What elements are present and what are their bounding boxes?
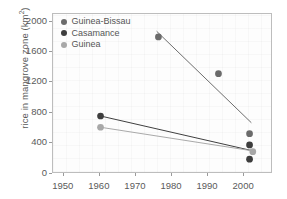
- x-tick-label: 1960: [79, 181, 119, 191]
- data-point: [246, 130, 253, 137]
- x-tick-label: 1970: [115, 181, 155, 191]
- data-point: [249, 148, 256, 155]
- x-tick-mark: [207, 173, 208, 177]
- x-tick-mark: [171, 173, 172, 177]
- legend-label: Guinea-Bissau: [72, 17, 131, 26]
- legend-marker-icon: [61, 42, 67, 48]
- plot-area: Guinea-BissauCasamanceGuinea: [52, 13, 272, 173]
- data-point: [246, 142, 253, 149]
- legend-marker-icon: [61, 30, 67, 36]
- y-tick-label: 1600: [17, 46, 47, 56]
- data-point: [246, 156, 253, 163]
- legend-label: Guinea: [72, 40, 101, 49]
- data-point: [97, 124, 104, 131]
- x-tick-label: 1950: [43, 181, 83, 191]
- x-tick-label: 2000: [223, 181, 263, 191]
- x-tick-mark: [135, 173, 136, 177]
- legend-item-casamance: Casamance: [61, 28, 131, 40]
- x-tick-mark: [243, 173, 244, 177]
- data-point: [97, 113, 104, 120]
- data-point: [155, 34, 162, 41]
- x-tick-label: 1990: [187, 181, 227, 191]
- marker-group: [97, 34, 256, 163]
- y-tick-label: 1200: [17, 76, 47, 86]
- x-tick-mark: [63, 173, 64, 177]
- legend-item-guinea: Guinea: [61, 39, 131, 51]
- trendline-casamance: [101, 116, 252, 151]
- y-tick-label: 800: [17, 107, 47, 117]
- y-tick-label: 0: [17, 168, 47, 178]
- data-point: [215, 70, 222, 77]
- y-tick-mark: [49, 173, 53, 174]
- trendline-guinea: [101, 127, 253, 151]
- x-tick-mark: [99, 173, 100, 177]
- y-tick-label: 400: [17, 137, 47, 147]
- y-axis-tick-labels: 0400800120016002000: [14, 0, 47, 199]
- legend-label: Casamance: [72, 29, 120, 38]
- y-tick-label: 2000: [17, 16, 47, 26]
- legend-marker-icon: [61, 19, 67, 25]
- x-tick-label: 1980: [151, 181, 191, 191]
- chart-figure: rice in mangrove zone (km2) 040080012001…: [0, 0, 287, 199]
- legend-item-guinea-bissau: Guinea-Bissau: [61, 16, 131, 28]
- legend: Guinea-BissauCasamanceGuinea: [61, 16, 131, 51]
- trendline-guinea-bissau: [157, 31, 252, 123]
